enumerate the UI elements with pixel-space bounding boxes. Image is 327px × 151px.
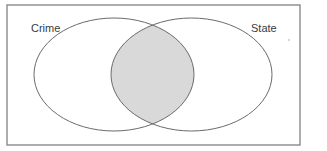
scan-speck xyxy=(288,39,290,41)
crime-label: Crime xyxy=(31,22,60,34)
state-label: State xyxy=(251,22,277,34)
venn-diagram: Crime State xyxy=(0,0,327,151)
